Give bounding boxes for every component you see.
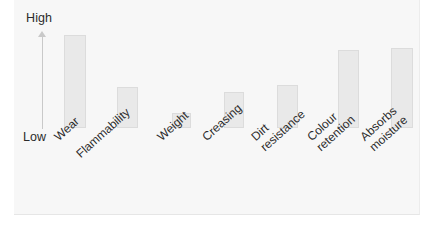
y-axis-arrow <box>37 31 48 129</box>
bar <box>64 35 86 128</box>
category-label: Wear <box>52 115 82 144</box>
axis-label-low: Low <box>23 130 46 144</box>
bar-chart: High Low WearFlammabilityWeightCreasingD… <box>0 0 435 239</box>
y-axis-line <box>42 36 43 129</box>
axis-label-high: High <box>26 11 52 25</box>
category-label: Dirt resistance <box>249 97 308 154</box>
